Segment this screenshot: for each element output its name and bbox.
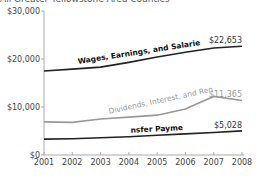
x-tick-label: 2006 (175, 158, 195, 167)
line-chart: $0$10,000$20,000$30,00020012002200320042… (0, 0, 257, 182)
y-tick-label: $30,000 (7, 7, 40, 16)
x-tick-label: 2008 (232, 158, 252, 167)
x-tick-label: 2001 (34, 158, 54, 167)
axes: $0$10,000$20,000$30,00020012002200320042… (7, 7, 252, 167)
end-value-label: $22,653 (209, 36, 242, 45)
x-tick-label: 2005 (147, 158, 167, 167)
end-value-label: $5,028 (214, 121, 242, 130)
x-tick-label: 2003 (90, 158, 110, 167)
y-tick-label: $20,000 (7, 55, 40, 64)
series-labels: $22,653Wages, Earnings, and Salaries$11,… (0, 0, 242, 135)
x-tick-label: 2004 (119, 158, 139, 167)
y-tick-label: $10,000 (7, 103, 40, 112)
x-tick-label: 2007 (204, 158, 224, 167)
end-value-label: $11,365 (209, 90, 242, 99)
x-tick-label: 2002 (62, 158, 82, 167)
